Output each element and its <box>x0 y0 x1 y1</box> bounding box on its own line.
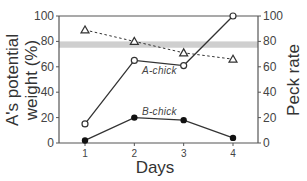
data-point <box>180 117 186 123</box>
y-right-tick-label: 40 <box>263 85 277 99</box>
x-tick-label: 4 <box>230 148 236 159</box>
data-point <box>82 137 88 143</box>
chart: 0204060801000204060801001234 DaysA's pot… <box>0 0 307 181</box>
data-point <box>131 57 137 63</box>
data-point <box>180 49 188 56</box>
y-left-tick-label: 100 <box>34 9 54 23</box>
y-left-axis-label: A's potentialweight (%) <box>3 34 41 126</box>
y-left-tick-label: 80 <box>41 34 55 48</box>
data-point <box>131 114 137 120</box>
x-axis-label: Days <box>136 158 175 177</box>
y-left-tick-label: 0 <box>47 136 54 150</box>
y-left-tick-label: 60 <box>41 60 55 74</box>
y-left-tick-label: 40 <box>41 85 55 99</box>
b-chick-label: B-chick <box>142 106 178 117</box>
data-point <box>82 121 88 127</box>
y-right-tick-label: 100 <box>263 9 283 23</box>
series-layer <box>81 13 237 144</box>
a-chick-label: A-chick <box>141 65 178 76</box>
y-left-tick-label: 20 <box>41 111 55 125</box>
y-right-tick-label: 20 <box>263 111 277 125</box>
y-right-axis-label: Peck rate <box>284 44 303 116</box>
y-right-tick-label: 60 <box>263 60 277 74</box>
axes: 0204060801000204060801001234 <box>34 9 283 159</box>
y-right-tick-label: 80 <box>263 34 277 48</box>
x-tick-label: 3 <box>181 148 187 159</box>
x-tick-label: 1 <box>82 148 88 159</box>
data-point <box>130 37 138 44</box>
data-point <box>181 63 187 69</box>
y-right-tick-label: 0 <box>263 136 270 150</box>
series-b-chick <box>82 114 236 143</box>
data-point <box>81 26 89 33</box>
data-point <box>229 55 237 62</box>
data-point <box>230 135 236 141</box>
data-point <box>230 13 236 19</box>
